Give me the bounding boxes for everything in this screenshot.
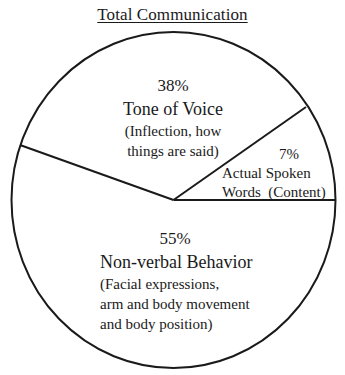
slice-desc-tone-line1: (Inflection, how (98, 121, 248, 141)
slice-value-nonverbal: 55% (100, 228, 250, 250)
slice-desc-nonverbal-line2: arm and body movement (100, 294, 300, 314)
slice-value-tone: 38% (98, 75, 248, 97)
slice-name-tone: Tone of Voice (98, 97, 248, 121)
slice-desc-nonverbal-line1: (Facial expressions, (100, 274, 300, 294)
slice-name-words-line2: Words (Content) (222, 183, 342, 202)
slice-value-words: 7% (222, 144, 342, 164)
slice-label-non-verbal-behavior: 55% Non-verbal Behavior (Facial expressi… (100, 228, 300, 334)
slice-desc-nonverbal-line3: and body position) (100, 314, 300, 334)
slice-label-actual-spoken-words: 7% Actual Spoken Words (Content) (222, 144, 342, 202)
slice-name-words-line1: Actual Spoken (222, 164, 342, 183)
slice-name-nonverbal: Non-verbal Behavior (100, 250, 300, 274)
